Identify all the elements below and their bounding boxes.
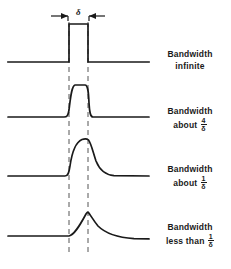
trace-1-waveform bbox=[8, 24, 149, 62]
label-trace-1: Bandwidth infinite bbox=[151, 48, 229, 73]
delta-symbol: δ bbox=[76, 7, 81, 17]
left-arrow-head bbox=[61, 13, 68, 19]
label-trace-3-denominator: δ bbox=[200, 183, 206, 190]
trace-2-waveform bbox=[8, 85, 149, 117]
label-trace-2-row: about 4 δ bbox=[173, 117, 207, 133]
label-trace-4-row: less than 1 δ bbox=[166, 233, 214, 249]
label-trace-3-fraction: 1 δ bbox=[200, 175, 206, 191]
label-trace-1-line2: infinite bbox=[151, 60, 229, 72]
label-trace-3: Bandwidth about 1 δ bbox=[151, 163, 229, 191]
label-trace-2-prefix: about bbox=[173, 119, 197, 131]
label-trace-2-numerator: 4 bbox=[201, 117, 207, 125]
label-trace-2-fraction: 4 δ bbox=[200, 117, 206, 133]
label-trace-3-prefix: about bbox=[173, 177, 197, 189]
label-trace-3-line2: about 1 δ bbox=[151, 175, 229, 191]
label-trace-3-line1: Bandwidth bbox=[151, 163, 229, 175]
right-arrow-head bbox=[89, 13, 96, 19]
label-trace-4-numerator: 1 bbox=[208, 233, 214, 241]
label-trace-4-line1: Bandwidth bbox=[151, 221, 229, 233]
trace-4-waveform bbox=[8, 212, 149, 239]
label-trace-4-fraction: 1 δ bbox=[208, 233, 214, 249]
label-trace-1-prefix: infinite bbox=[175, 60, 204, 72]
label-trace-4-line2: less than 1 δ bbox=[151, 233, 229, 249]
label-trace-1-line1: Bandwidth bbox=[151, 48, 229, 60]
trace-3-waveform bbox=[8, 139, 149, 176]
label-trace-4: Bandwidth less than 1 δ bbox=[151, 221, 229, 249]
label-trace-4-denominator: δ bbox=[208, 241, 214, 248]
label-trace-3-numerator: 1 bbox=[201, 175, 207, 183]
pulse-bandwidth-figure: δ Bandwidth infinite Bandwidth about 4 δ… bbox=[0, 0, 231, 269]
label-trace-4-prefix: less than bbox=[166, 235, 205, 247]
label-trace-2-line1: Bandwidth bbox=[151, 105, 229, 117]
label-trace-2-denominator: δ bbox=[200, 125, 206, 132]
label-trace-1-row: infinite bbox=[175, 60, 204, 72]
label-trace-2: Bandwidth about 4 δ bbox=[151, 105, 229, 133]
label-trace-3-row: about 1 δ bbox=[173, 175, 207, 191]
label-trace-2-line2: about 4 δ bbox=[151, 117, 229, 133]
